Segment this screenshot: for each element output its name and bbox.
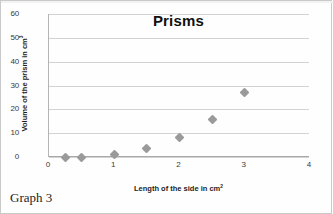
graph-caption: Graph 3 xyxy=(10,190,52,205)
y-axis-label: Volume of the prism in cm3 xyxy=(20,9,29,159)
y-tick-label: 50 xyxy=(0,34,19,42)
gridline-y xyxy=(49,62,309,63)
x-axis-label-exponent: 2 xyxy=(220,184,223,189)
x-tick-label: 0 xyxy=(39,161,57,169)
gridline-y xyxy=(49,38,309,39)
data-point-marker xyxy=(109,150,119,160)
y-axis-label-exponent: 3 xyxy=(19,36,24,39)
x-tick-label: 3 xyxy=(235,161,253,169)
data-point-marker xyxy=(175,133,185,143)
x-tick-label: 2 xyxy=(170,161,188,169)
top-edge-band xyxy=(1,1,333,3)
y-tick-label: 10 xyxy=(0,129,19,137)
gridline-y xyxy=(49,157,309,158)
data-point-marker xyxy=(60,152,70,162)
x-tick-label: 1 xyxy=(104,161,122,169)
data-point-marker xyxy=(142,144,152,154)
plot-area xyxy=(48,14,309,157)
gridline-y xyxy=(49,14,309,15)
y-tick-label: 40 xyxy=(0,58,19,66)
y-tick-label: 20 xyxy=(0,105,19,113)
gridline-y xyxy=(49,86,309,87)
gridline-y xyxy=(49,109,309,110)
x-axis-label-text: Length of the side in cm xyxy=(134,184,220,193)
data-point-marker xyxy=(207,115,217,125)
x-axis-label: Length of the side in cm2 xyxy=(48,184,309,193)
x-tick-label: 4 xyxy=(300,161,318,169)
y-axis-label-text: Volume of the prism in cm xyxy=(20,38,29,131)
data-point-marker xyxy=(77,152,87,162)
y-tick-label: 60 xyxy=(0,10,19,18)
y-tick-label: 0 xyxy=(0,153,19,161)
data-point-marker xyxy=(240,88,250,98)
y-tick-label: 30 xyxy=(0,82,19,90)
